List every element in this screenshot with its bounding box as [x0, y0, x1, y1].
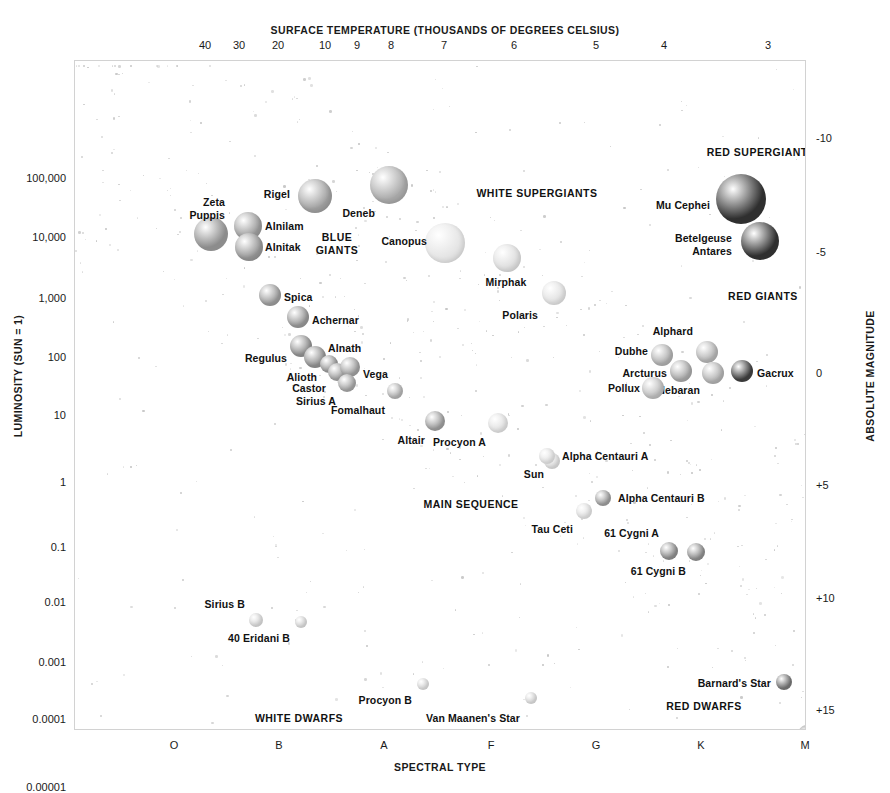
background-star: [797, 443, 799, 445]
star-marker[interactable]: [298, 179, 332, 213]
background-star: [775, 523, 777, 525]
background-star: [686, 105, 688, 107]
background-star: [645, 552, 647, 554]
background-star: [584, 122, 586, 124]
star-marker[interactable]: [539, 448, 555, 464]
background-star: [413, 488, 415, 490]
star-marker[interactable]: [702, 362, 724, 384]
left-tick-00001: 0.0001: [32, 713, 66, 725]
background-star: [485, 252, 487, 254]
star-label: Betelgeuse: [675, 232, 732, 244]
star-marker[interactable]: [687, 543, 705, 561]
background-star: [350, 147, 353, 150]
background-star: [352, 131, 354, 133]
background-star: [387, 152, 389, 154]
background-star: [654, 605, 657, 608]
background-star: [275, 544, 277, 546]
background-star: [678, 396, 680, 398]
right-tick-p15: +15: [816, 704, 835, 716]
bottom-tick-K: K: [697, 739, 704, 751]
star-label: Deneb: [342, 207, 375, 219]
background-star: [623, 207, 626, 210]
star-marker[interactable]: [525, 692, 537, 704]
background-star: [222, 294, 224, 296]
star-marker[interactable]: [651, 344, 673, 366]
star-marker[interactable]: [660, 542, 678, 560]
background-star: [777, 463, 779, 465]
background-star: [442, 88, 444, 90]
star-marker[interactable]: [542, 281, 566, 305]
star-marker[interactable]: [295, 616, 307, 628]
background-star: [439, 356, 441, 358]
star-marker[interactable]: [287, 306, 309, 328]
star-marker[interactable]: [338, 374, 356, 392]
background-star: [792, 664, 794, 666]
star-marker[interactable]: [798, 725, 806, 730]
background-star: [113, 149, 115, 151]
star-marker[interactable]: [576, 503, 592, 519]
background-star: [369, 172, 371, 174]
background-star: [271, 607, 273, 609]
background-star: [799, 286, 802, 289]
background-star: [316, 165, 319, 168]
star-marker[interactable]: [776, 674, 792, 690]
background-star: [523, 266, 525, 268]
background-star: [625, 305, 627, 307]
background-star: [113, 321, 115, 323]
star-marker[interactable]: [194, 217, 228, 251]
background-star: [764, 614, 766, 616]
star-marker[interactable]: [235, 233, 263, 261]
star-label: Zeta Puppis: [189, 196, 225, 221]
background-star: [502, 495, 504, 497]
background-star: [445, 308, 448, 311]
background-star: [643, 432, 645, 434]
star-marker[interactable]: [417, 678, 429, 690]
background-star: [709, 214, 711, 216]
background-star: [274, 423, 276, 425]
background-star: [714, 532, 716, 534]
star-marker[interactable]: [670, 360, 692, 382]
background-star: [542, 664, 544, 666]
region-label-red-giants: RED GIANTS: [728, 290, 798, 303]
background-star: [452, 476, 454, 478]
background-star: [385, 261, 388, 264]
background-star: [206, 183, 208, 185]
background-star: [335, 296, 337, 298]
background-star: [358, 592, 360, 594]
star-marker[interactable]: [259, 284, 281, 306]
star-marker[interactable]: [249, 613, 263, 627]
background-star: [118, 65, 121, 68]
star-marker[interactable]: [425, 411, 445, 431]
background-star: [363, 586, 365, 588]
background-star: [118, 74, 120, 76]
star-marker[interactable]: [731, 360, 753, 382]
star-marker[interactable]: [488, 413, 508, 433]
star-marker[interactable]: [741, 222, 779, 260]
background-star: [774, 455, 776, 457]
star-marker[interactable]: [387, 383, 403, 399]
star-label: 61 Cygni A: [604, 527, 659, 539]
background-star: [382, 687, 384, 689]
star-marker[interactable]: [642, 377, 664, 399]
star-marker[interactable]: [696, 341, 718, 363]
star-marker[interactable]: [595, 490, 611, 506]
background-star: [697, 401, 700, 404]
background-star: [676, 717, 679, 720]
background-star: [459, 278, 461, 280]
background-star: [335, 698, 338, 701]
star-marker[interactable]: [370, 166, 408, 204]
background-star: [102, 170, 104, 172]
star-label: Spica: [284, 291, 313, 303]
star-marker[interactable]: [493, 244, 521, 272]
background-star: [526, 715, 529, 718]
background-star: [180, 492, 182, 494]
bottom-tick-M: M: [800, 739, 809, 751]
star-marker[interactable]: [425, 223, 465, 263]
background-star: [793, 89, 795, 91]
background-star: [416, 221, 419, 224]
background-star: [731, 650, 733, 652]
star-marker[interactable]: [716, 174, 766, 224]
top-tick-40: 40: [199, 39, 211, 51]
background-star: [756, 361, 758, 363]
star-label: 61 Cygni B: [631, 565, 686, 577]
